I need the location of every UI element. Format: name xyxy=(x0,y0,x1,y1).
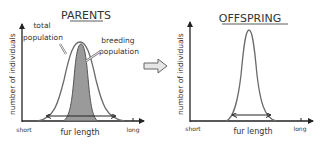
parents-chart: PARENTS number of individuals short fur … xyxy=(8,9,144,137)
offspring-x-label: fur length xyxy=(233,127,272,136)
offspring-x-max: long xyxy=(294,125,307,133)
parents-x-min: short xyxy=(16,126,32,133)
total-label-2: population xyxy=(23,33,63,42)
offspring-curve xyxy=(226,30,276,121)
breeding-label-1: breeding xyxy=(101,36,135,45)
parents-y-label: number of individuals xyxy=(8,33,17,115)
offspring-title: OFFSPRING xyxy=(219,12,281,25)
parents-x-label: fur length xyxy=(60,128,99,137)
offspring-x-min: short xyxy=(185,125,201,132)
parents-title: PARENTS xyxy=(61,9,111,22)
offspring-chart: OFFSPRING number of individuals short fu… xyxy=(176,12,313,136)
breeding-label-2: population xyxy=(99,47,139,56)
offspring-y-label: number of individuals xyxy=(176,33,185,115)
parents-x-max: long xyxy=(127,126,140,134)
total-label-1: total xyxy=(33,21,50,30)
selection-diagram: PARENTS number of individuals short fur … xyxy=(0,0,321,144)
arrow-right-icon xyxy=(144,59,167,73)
